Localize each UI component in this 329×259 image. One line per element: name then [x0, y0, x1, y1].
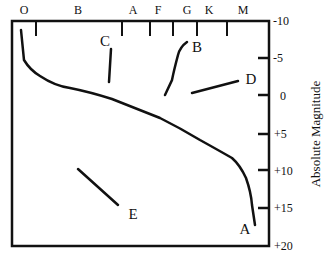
spectral-class-g: G	[183, 3, 192, 17]
region-b-curve	[165, 42, 187, 95]
spectral-class-k: K	[205, 3, 214, 17]
magnitude-tick-pos10: +10	[274, 164, 293, 178]
magnitude-tick-pos5: +5	[274, 127, 287, 141]
region-label-e: E	[128, 206, 137, 222]
spectral-class-f: F	[155, 3, 162, 17]
right-ticks	[258, 58, 269, 208]
y-axis-label: Absolute Magnitude	[308, 81, 323, 188]
region-label-b: B	[192, 39, 202, 55]
magnitude-tick-pos15: +15	[274, 201, 293, 215]
magnitude-tick-neg10: -10	[273, 14, 289, 28]
region-label-d: D	[246, 71, 257, 87]
magnitude-tick-0: 0	[280, 89, 286, 103]
magnitude-tick-pos20: +20	[274, 239, 293, 253]
region-label-c: C	[100, 33, 110, 49]
spectral-class-a: A	[129, 3, 138, 17]
spectral-class-b: B	[74, 3, 82, 17]
hr-diagram: O B A F G K M -10 -5 0 +5 +10 +15 +20 Ab…	[0, 0, 329, 259]
plot-frame	[12, 21, 269, 246]
spectral-class-o: O	[20, 3, 29, 17]
region-c-line	[109, 49, 111, 82]
region-label-a: A	[240, 221, 251, 237]
spectral-class-m: M	[238, 3, 249, 17]
magnitude-tick-neg5: -5	[273, 51, 283, 65]
main-sequence-curve	[21, 30, 255, 225]
top-ticks	[36, 21, 227, 36]
region-e-line	[78, 169, 118, 205]
region-d-line	[192, 81, 238, 93]
